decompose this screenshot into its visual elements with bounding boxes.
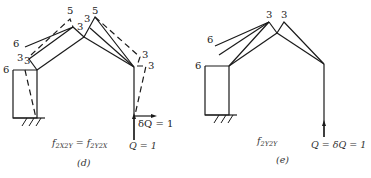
caption-e: (e) bbox=[276, 154, 289, 165]
equation-d: f2X2Y = f2Y2X bbox=[51, 137, 108, 150]
label-d-apex-5a: 5 bbox=[67, 5, 73, 16]
right-rafter bbox=[84, 37, 134, 67]
label-d-delta-q: δQ = 1 bbox=[138, 118, 173, 129]
label-d-left-top: 6 bbox=[3, 64, 9, 75]
displaced-right-e bbox=[277, 22, 324, 64]
label-d-inner-3a: 3 bbox=[17, 52, 23, 63]
load-arrow-e bbox=[322, 120, 326, 137]
left-rafter bbox=[37, 37, 84, 70]
label-d-apex-3b: 3 bbox=[84, 13, 90, 24]
dashed-left-column bbox=[25, 70, 36, 118]
right-rafter-e bbox=[277, 33, 324, 64]
fixed-support-hatch bbox=[13, 118, 45, 126]
frame-diagrams: 6 6 3 3 5 3 3 5 3 3 δQ = 1 Q = 1 f2X2Y =… bbox=[0, 0, 371, 178]
figure-d: 6 6 3 3 5 3 3 5 3 3 δQ = 1 Q = 1 f2X2Y =… bbox=[3, 5, 173, 168]
caption-d: (d) bbox=[77, 157, 91, 168]
label-e-apex-3b: 3 bbox=[281, 9, 287, 20]
load-arrow-vertical bbox=[132, 113, 136, 140]
label-d-apex-3a: 3 bbox=[77, 21, 83, 32]
label-d-inner-3b: 3 bbox=[24, 55, 30, 66]
label-d-apex-5b: 5 bbox=[92, 5, 98, 16]
label-d-upper-6: 6 bbox=[13, 38, 19, 49]
left-column-rect bbox=[13, 70, 37, 118]
dashed-right-deflected bbox=[95, 17, 140, 66]
left-rafter-e bbox=[229, 33, 277, 66]
label-e-load: Q = δQ = 1 bbox=[311, 139, 366, 150]
fixed-support-hatch-e bbox=[205, 115, 237, 123]
label-e-apex-3a: 3 bbox=[266, 9, 272, 20]
equation-e: f2Y2Y bbox=[256, 135, 278, 148]
label-e-upper-6: 6 bbox=[207, 34, 213, 45]
label-e-left-top: 6 bbox=[195, 60, 201, 71]
label-d-q: Q = 1 bbox=[129, 140, 157, 151]
left-column-rect-e bbox=[205, 66, 229, 115]
figure-e: 6 6 3 3 f2Y2Y Q = δQ = 1 (e) bbox=[195, 9, 366, 165]
dashed-right-column bbox=[135, 66, 146, 115]
label-d-right-3b: 3 bbox=[148, 60, 154, 71]
label-d-right-3a: 3 bbox=[142, 49, 148, 60]
